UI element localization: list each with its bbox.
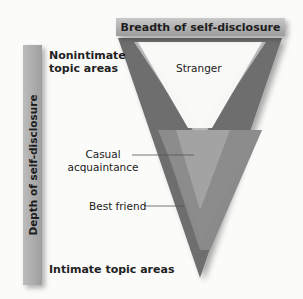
casual-acquaintance-label: Casual acquaintance <box>66 148 140 174</box>
breadth-axis-label: Breadth of self-disclosure <box>121 21 281 34</box>
intimate-label: Intimate topic areas <box>49 263 174 276</box>
breadth-axis-bar: Breadth of self-disclosure <box>116 18 285 36</box>
stranger-label: Stranger <box>176 62 222 75</box>
funnel-diagram <box>0 0 303 299</box>
best-friend-label: Best friend <box>89 200 146 213</box>
depth-axis-bar: Depth of self-disclosure <box>23 45 42 285</box>
nonintimate-label: Nonintimate topic areas <box>49 49 119 75</box>
depth-axis-label: Depth of self-disclosure <box>27 94 39 235</box>
